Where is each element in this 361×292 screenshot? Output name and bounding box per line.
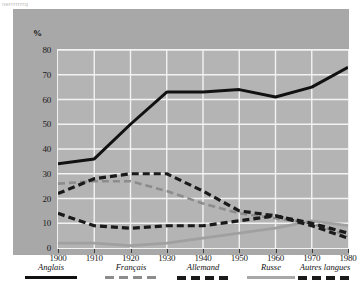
legend-item-franais[interactable]: Français: [100, 262, 162, 279]
y-tick-0: 0: [13, 243, 51, 253]
y-tick-10: 10: [13, 218, 51, 228]
y-tick-50: 50: [13, 119, 51, 129]
gridlines: [58, 50, 348, 248]
y-tick-60: 60: [13, 95, 51, 105]
legend-item-allemand[interactable]: Allemand: [172, 262, 234, 280]
clipped-header-text: nerrrrrrrq: [2, 0, 122, 8]
y-tick-80: 80: [13, 45, 51, 55]
legend-label: Allemand: [172, 262, 234, 272]
legend-item-autres-langues[interactable]: Autres langues: [285, 262, 361, 280]
y-tick-40: 40: [13, 144, 51, 154]
y-axis-unit-label: %: [33, 28, 42, 38]
legend-swatch-dashed-black-thick: [298, 276, 352, 280]
plot-area: [57, 49, 349, 249]
y-tick-70: 70: [13, 70, 51, 80]
legend-label: Autres langues: [285, 262, 361, 272]
y-tick-20: 20: [13, 194, 51, 204]
legend-item-anglais[interactable]: Anglais: [20, 262, 82, 279]
legend-label: Anglais: [20, 262, 82, 272]
y-tick-30: 30: [13, 169, 51, 179]
legend-swatch-solid-black: [25, 276, 77, 279]
legend-swatch-dashed-black-thick: [177, 276, 229, 280]
legend-label: Français: [100, 262, 162, 272]
legend-swatch-dashed-gray: [105, 276, 157, 279]
chart-svg: [58, 50, 348, 248]
chart-legend: AnglaisFrançaisAllemandRusseAutres langu…: [13, 262, 353, 290]
chart-panel: % 80706050403020100 19001910192019301940…: [13, 9, 349, 255]
